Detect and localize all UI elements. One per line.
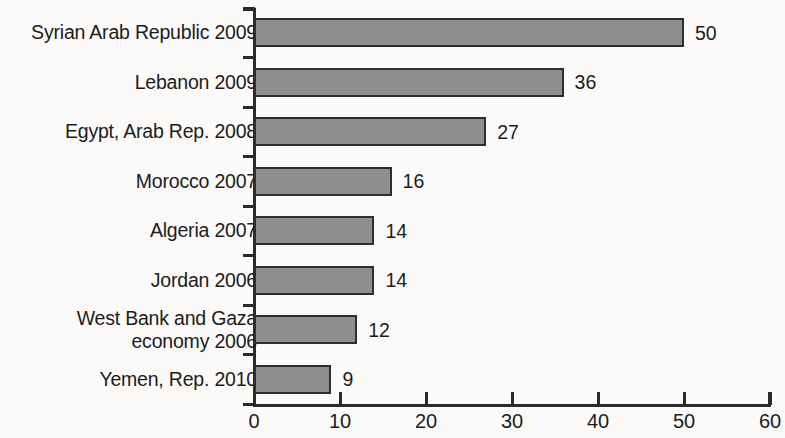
x-tick-label: 10: [329, 410, 351, 433]
x-axis-ticks: 0102030405060: [0, 0, 785, 438]
x-tick: [511, 392, 514, 405]
x-tick-label: 60: [759, 410, 781, 433]
x-tick: [253, 392, 256, 405]
bar-chart: Syrian Arab Republic 200950Lebanon 20093…: [0, 0, 785, 438]
x-tick-label: 30: [501, 410, 523, 433]
x-tick: [597, 392, 600, 405]
x-tick: [425, 392, 428, 405]
x-tick-label: 50: [673, 410, 695, 433]
x-tick-label: 40: [587, 410, 609, 433]
x-tick: [769, 392, 772, 405]
x-tick: [339, 392, 342, 405]
x-tick: [683, 392, 686, 405]
x-tick-label: 20: [415, 410, 437, 433]
x-tick-label: 0: [248, 410, 259, 433]
